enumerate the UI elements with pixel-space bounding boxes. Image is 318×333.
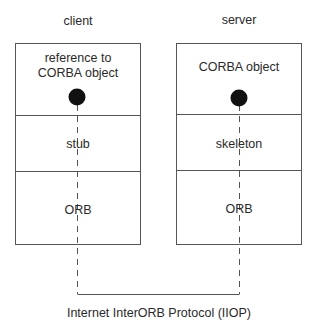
client-layer-stub: stub <box>15 137 141 152</box>
server-object-dot <box>231 90 248 107</box>
server-layer-skeleton: skeleton <box>176 137 302 152</box>
protocol-label: Internet InterORB Protocol (IIOP) <box>30 306 288 321</box>
server-header: server <box>199 13 279 28</box>
server-layer-corba-object: CORBA object <box>176 60 302 75</box>
client-header: client <box>38 14 118 29</box>
client-object-dot <box>69 89 86 106</box>
client-layer-orb: ORB <box>15 203 141 218</box>
diagram-canvas <box>0 0 318 333</box>
client-layer-reference: reference to CORBA object <box>15 51 141 81</box>
server-layer-orb: ORB <box>176 202 302 217</box>
iiop-connection <box>78 105 240 295</box>
